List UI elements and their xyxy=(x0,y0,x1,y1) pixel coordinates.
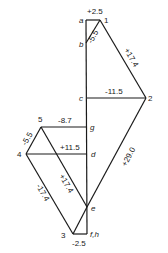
point-label-b: b xyxy=(79,40,84,49)
value-2-e: +29.0 xyxy=(120,145,138,168)
value-3-fh: -2.5 xyxy=(72,239,86,248)
value-1-2: +17.4 xyxy=(122,47,140,70)
point-label-g: g xyxy=(90,123,95,132)
point-label-4: 4 xyxy=(17,150,22,159)
point-label-fh: f,h xyxy=(90,230,99,239)
point-label-a: a xyxy=(79,16,84,25)
force-diagram: a 1 b c 2 5 g 4 d e 3 f,h +2.5 -5.5 +17.… xyxy=(0,0,168,253)
value-b-1: -5.5 xyxy=(86,28,101,45)
value-c-2: -11.5 xyxy=(105,87,123,96)
value-5-e: +17.4 xyxy=(57,173,75,196)
point-label-d: d xyxy=(91,150,96,159)
member-3-e xyxy=(73,207,87,234)
point-label-3: 3 xyxy=(61,231,66,240)
value-4-3: -17.4 xyxy=(34,183,51,204)
point-label-c: c xyxy=(79,94,83,103)
value-a-1: +2.5 xyxy=(87,7,103,16)
value-5-g: -8.7 xyxy=(58,116,72,125)
point-label-1: 1 xyxy=(104,16,109,25)
value-4-d: +11.5 xyxy=(60,143,80,152)
point-label-e: e xyxy=(91,204,96,213)
point-label-5: 5 xyxy=(38,115,43,124)
value-4-5: -5.5 xyxy=(20,130,35,147)
point-label-2: 2 xyxy=(148,94,153,103)
member-2-e xyxy=(87,98,146,207)
